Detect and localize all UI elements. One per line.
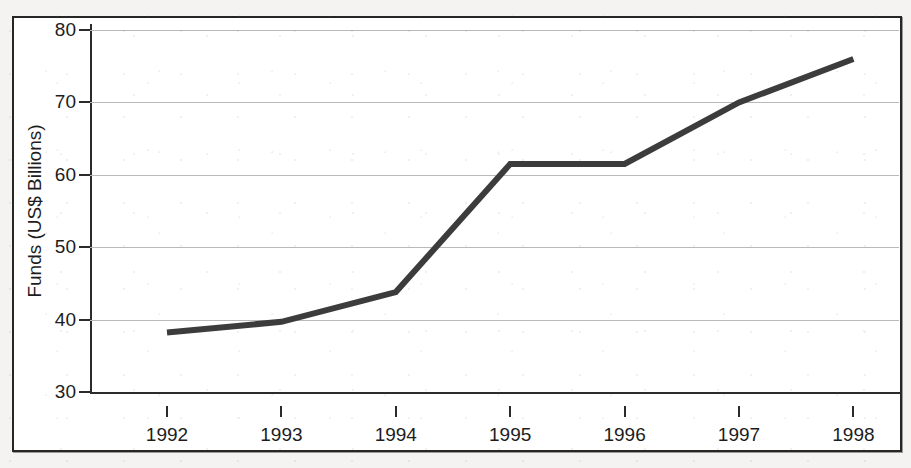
x-axis-tick	[624, 406, 626, 417]
y-axis-tick	[79, 319, 90, 321]
figure-frame: Funds (US$ Billions) 304050607080 199219…	[12, 16, 902, 452]
y-axis-tick-label: 70	[55, 91, 76, 113]
x-axis-tick	[852, 406, 854, 417]
x-axis-tick	[509, 406, 511, 417]
y-axis-tick-label: 50	[55, 236, 76, 258]
x-axis-tick	[280, 406, 282, 417]
y-axis-tick-label: 80	[55, 19, 76, 41]
line-chart: Funds (US$ Billions) 304050607080 199219…	[14, 18, 900, 450]
y-axis-tick-label: 40	[55, 309, 76, 331]
x-axis-tick-label: 1992	[146, 424, 188, 446]
series-funds-line	[90, 30, 899, 392]
x-axis-tick-label: 1997	[718, 424, 760, 446]
x-axis-tick	[738, 406, 740, 417]
x-axis-tick-label: 1995	[489, 424, 531, 446]
page-background: Funds (US$ Billions) 304050607080 199219…	[0, 0, 911, 468]
x-axis-line	[90, 392, 901, 394]
x-axis-tick-label: 1996	[603, 424, 645, 446]
x-axis-tick-label: 1998	[832, 424, 874, 446]
plot-area: 304050607080 199219931994199519961997199…	[90, 30, 899, 392]
series-funds-polyline	[167, 59, 853, 333]
y-axis-tick	[79, 174, 90, 176]
y-axis-title: Funds (US$ Billions)	[24, 30, 48, 392]
y-axis-tick	[79, 246, 90, 248]
y-axis-tick	[79, 391, 90, 393]
y-axis-tick	[79, 101, 90, 103]
y-axis-tick	[79, 29, 90, 31]
x-axis-tick	[395, 406, 397, 417]
x-axis-tick-label: 1993	[260, 424, 302, 446]
x-axis-tick	[166, 406, 168, 417]
y-axis-tick-label: 60	[55, 164, 76, 186]
x-axis-tick-label: 1994	[375, 424, 417, 446]
y-axis-tick-label: 30	[55, 381, 76, 403]
